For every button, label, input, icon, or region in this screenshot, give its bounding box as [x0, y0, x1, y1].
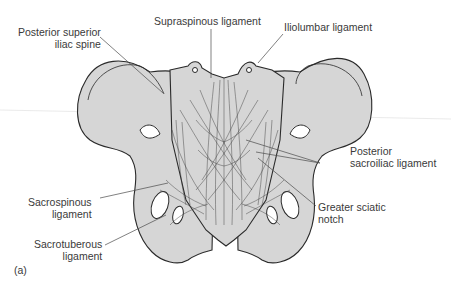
label-greater-sciatic-notch: Greater sciatic notch	[318, 201, 386, 225]
label-line: Sacrotuberous	[34, 238, 102, 250]
label-sacrospinous-ligament: Sacrospinous ligament	[28, 196, 92, 220]
label-line: Supraspinous ligament	[154, 15, 261, 27]
label-sacrotuberous-ligament: Sacrotuberous ligament	[34, 238, 102, 262]
label-line: notch	[318, 213, 386, 225]
label-line: ligament	[28, 208, 92, 220]
label-posterior-superior-iliac-spine: Posterior superior iliac spine	[18, 26, 101, 50]
label-line: Greater sciatic	[318, 201, 386, 213]
label-line: sacroiliac ligament	[350, 157, 436, 169]
label-line: ligament	[34, 250, 102, 262]
label-line: Posterior	[350, 145, 436, 157]
label-line: Sacrospinous	[28, 196, 92, 208]
panel-label: (a)	[14, 264, 27, 276]
label-line: Posterior superior	[18, 26, 101, 38]
label-iliolumbar-ligament: Iliolumbar ligament	[284, 21, 372, 33]
pelvis-bone	[77, 58, 371, 262]
label-line: Iliolumbar ligament	[284, 21, 372, 33]
label-supraspinous-ligament: Supraspinous ligament	[154, 15, 261, 27]
label-line: iliac spine	[18, 38, 101, 50]
label-posterior-sacroiliac-ligament: Posterior sacroiliac ligament	[350, 145, 436, 169]
